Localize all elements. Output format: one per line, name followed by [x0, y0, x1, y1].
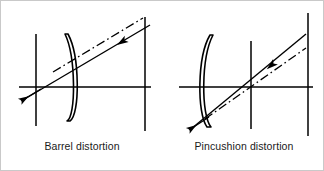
distortion-figure: Barrel distortion Pincushion distortion	[0, 0, 324, 171]
panel-barrel	[19, 17, 151, 131]
ideal-ray-pincushion	[205, 48, 306, 119]
ideal-ray-barrel	[53, 18, 143, 72]
caption-barrel-distortion: Barrel distortion	[1, 140, 163, 152]
panel-pincushion	[179, 13, 313, 136]
actual-ray-barrel-main	[23, 25, 150, 100]
caption-pincushion-distortion: Pincushion distortion	[163, 140, 324, 152]
lens-barrel	[65, 34, 77, 121]
